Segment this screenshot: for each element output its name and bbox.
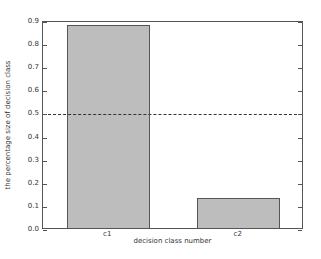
y-tick-label: 0.7 xyxy=(19,63,39,71)
y-tick-mark xyxy=(43,230,47,231)
y-tick-mark-right xyxy=(298,22,302,23)
y-tick-mark xyxy=(43,138,47,139)
y-tick-mark xyxy=(43,68,47,69)
y-tick-label: 0.0 xyxy=(19,225,39,233)
bar-c2 xyxy=(197,198,280,228)
y-tick-label: 0.3 xyxy=(19,156,39,164)
y-tick-label: 0.8 xyxy=(19,40,39,48)
y-tick-label: 0.4 xyxy=(19,133,39,141)
y-tick-label: 0.5 xyxy=(19,109,39,117)
y-tick-mark-right xyxy=(298,207,302,208)
bar-c1 xyxy=(67,25,150,228)
y-tick-mark-right xyxy=(298,161,302,162)
y-tick-mark-right xyxy=(298,91,302,92)
y-tick-label: 0.6 xyxy=(19,86,39,94)
y-tick-label: 0.1 xyxy=(19,202,39,210)
y-axis-title: the percentage size of decision class xyxy=(4,60,12,189)
y-tick-mark xyxy=(43,45,47,46)
y-tick-mark xyxy=(43,22,47,23)
y-tick-mark xyxy=(43,114,47,115)
y-tick-label: 0.2 xyxy=(19,179,39,187)
y-tick-mark-right xyxy=(298,138,302,139)
y-tick-mark-right xyxy=(298,230,302,231)
y-tick-mark-right xyxy=(298,114,302,115)
y-tick-mark xyxy=(43,184,47,185)
y-tick-mark xyxy=(43,207,47,208)
plot-area xyxy=(42,21,303,229)
y-tick-label: 0.9 xyxy=(19,17,39,25)
y-tick-mark-right xyxy=(298,68,302,69)
y-tick-mark-right xyxy=(298,45,302,46)
y-tick-mark-right xyxy=(298,184,302,185)
y-tick-mark xyxy=(43,161,47,162)
threshold-dashed-line xyxy=(43,114,302,115)
x-axis-title: decision class number xyxy=(0,237,321,245)
y-tick-mark xyxy=(43,91,47,92)
